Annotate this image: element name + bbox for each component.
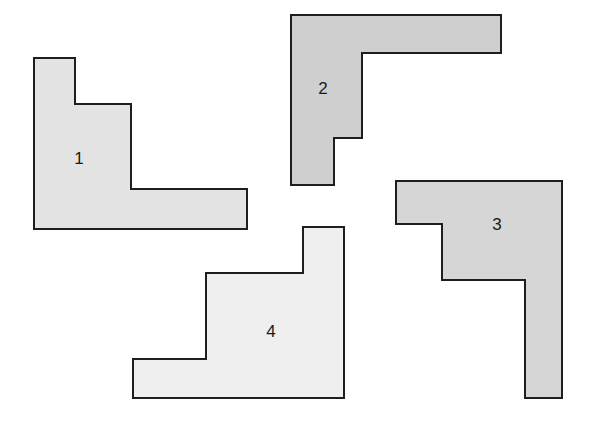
shape-2-label: 2 bbox=[318, 80, 327, 97]
shape-3-label: 3 bbox=[492, 216, 501, 233]
shape-1-label: 1 bbox=[74, 150, 83, 167]
shape-2 bbox=[291, 15, 501, 185]
shape-3 bbox=[396, 181, 562, 398]
shapes-diagram bbox=[0, 0, 589, 425]
shape-4-label: 4 bbox=[266, 323, 275, 340]
shape-4 bbox=[133, 227, 344, 398]
shape-1 bbox=[34, 58, 247, 229]
